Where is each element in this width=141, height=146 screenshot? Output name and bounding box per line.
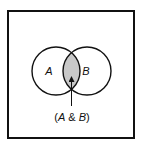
intersection-label: (A & B) [54, 111, 89, 123]
set-b-label: B [82, 65, 89, 77]
set-a-label: A [44, 65, 52, 77]
venn-diagram: A B (A & B) [0, 0, 141, 146]
